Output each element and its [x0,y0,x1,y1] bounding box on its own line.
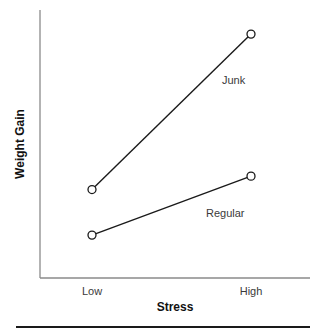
y-axis-title: Weight Gain [13,109,27,179]
x-tick-low: Low [82,285,102,297]
series-regular: Regular [88,172,255,239]
junk-series-label: Junk [222,74,246,86]
interaction-line-chart: Weight Gain Low High Stress Junk Regular [0,0,316,333]
x-tick-high: High [240,285,263,297]
junk-low-marker [88,186,96,194]
x-axis-title: Stress [157,300,194,314]
junk-high-marker [247,30,255,38]
regular-line [92,176,251,235]
series-junk: Junk [88,30,255,193]
junk-line [92,34,251,189]
regular-high-marker [247,172,255,180]
regular-low-marker [88,231,96,239]
regular-series-label: Regular [206,207,245,219]
